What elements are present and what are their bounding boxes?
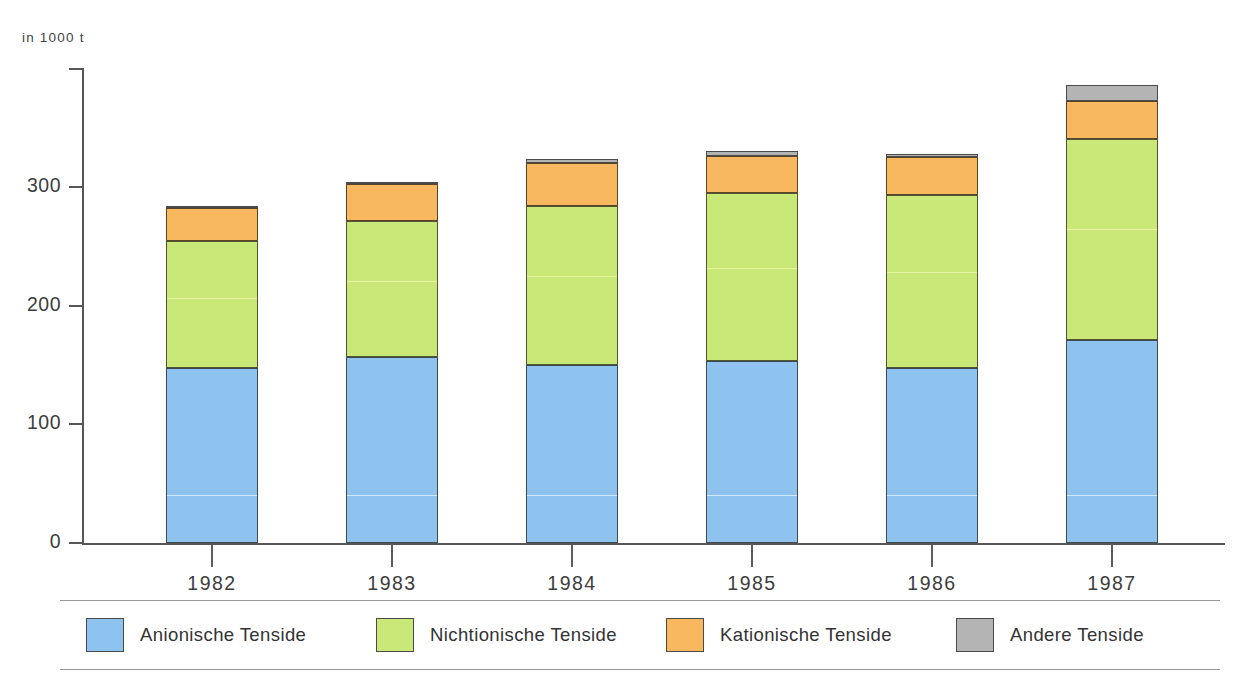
bar-segment[interactable] [706, 361, 798, 543]
bar-segment[interactable] [526, 163, 618, 206]
legend-label-nonionic: Nichtionische Tenside [430, 624, 617, 646]
legend-item-cationic[interactable]: Kationische Tenside [666, 618, 956, 652]
x-axis-tick [391, 545, 393, 567]
bar-segment[interactable] [346, 184, 438, 221]
chart-page: in 1000 t 0100200300 1982198319841985198… [0, 0, 1252, 689]
y-axis-tick-label: 200 [0, 293, 61, 316]
x-axis-tick [211, 545, 213, 567]
x-axis-tick-label: 1985 [692, 572, 812, 595]
x-axis-tick [931, 545, 933, 567]
chart-legend: Anionische TensideNichtionische TensideK… [60, 600, 1220, 670]
bar-segment[interactable] [526, 159, 618, 163]
legend-label-cationic: Kationische Tenside [720, 624, 892, 646]
bar-segment[interactable] [1066, 85, 1158, 102]
y-axis-line [82, 68, 84, 543]
legend-item-nonionic[interactable]: Nichtionische Tenside [376, 618, 666, 652]
bar-segment[interactable] [886, 195, 978, 368]
x-axis-tick [751, 545, 753, 567]
y-axis-tick-label: 300 [0, 174, 61, 197]
bar-segment[interactable] [166, 208, 258, 241]
bar-segment[interactable] [166, 241, 258, 368]
bar-segment[interactable] [1066, 101, 1158, 139]
bar-1987[interactable] [1066, 85, 1158, 543]
x-axis-tick-label: 1984 [512, 572, 632, 595]
plot-area: 0100200300 198219831984198519861987 [82, 68, 1225, 543]
bar-1982[interactable] [166, 206, 258, 543]
y-axis-tick [69, 542, 82, 544]
bar-1985[interactable] [706, 151, 798, 543]
legend-swatch-cationic [666, 618, 704, 652]
y-axis-tick [69, 423, 82, 425]
x-axis-tick-label: 1986 [872, 572, 992, 595]
x-axis-tick-label: 1982 [152, 572, 272, 595]
bar-segment[interactable] [706, 193, 798, 362]
legend-item-other[interactable]: Andere Tenside [956, 618, 1144, 652]
y-axis-tick-label: 0 [0, 530, 61, 553]
x-axis-tick-label: 1987 [1052, 572, 1172, 595]
bar-segment[interactable] [1066, 340, 1158, 543]
y-axis-unit-label: in 1000 t [22, 30, 85, 45]
x-axis-tick [571, 545, 573, 567]
legend-item-anionic[interactable]: Anionische Tenside [86, 618, 376, 652]
bar-1986[interactable] [886, 154, 978, 544]
legend-swatch-anionic [86, 618, 124, 652]
bar-segment[interactable] [886, 368, 978, 543]
legend-label-anionic: Anionische Tenside [140, 624, 306, 646]
bar-segment[interactable] [526, 365, 618, 543]
y-axis-top-cap [69, 68, 83, 70]
legend-swatch-nonionic [376, 618, 414, 652]
bar-segment[interactable] [346, 357, 438, 543]
legend-label-other: Andere Tenside [1010, 624, 1144, 646]
bar-segment[interactable] [526, 206, 618, 365]
bar-segment[interactable] [346, 221, 438, 356]
bar-1984[interactable] [526, 159, 618, 543]
bar-segment[interactable] [346, 182, 438, 184]
bar-1983[interactable] [346, 182, 438, 543]
bar-segment[interactable] [706, 156, 798, 193]
y-axis-tick-label: 100 [0, 411, 61, 434]
bar-segment[interactable] [166, 368, 258, 543]
x-axis-line [82, 543, 1225, 545]
bar-segment[interactable] [706, 151, 798, 156]
bar-segment[interactable] [1066, 139, 1158, 340]
y-axis-tick [69, 305, 82, 307]
y-axis-tick [69, 186, 82, 188]
legend-swatch-other [956, 618, 994, 652]
x-axis-tick-label: 1983 [332, 572, 452, 595]
bar-segment[interactable] [886, 157, 978, 195]
bar-segment[interactable] [886, 154, 978, 158]
x-axis-tick [1111, 545, 1113, 567]
bar-segment[interactable] [166, 206, 258, 208]
